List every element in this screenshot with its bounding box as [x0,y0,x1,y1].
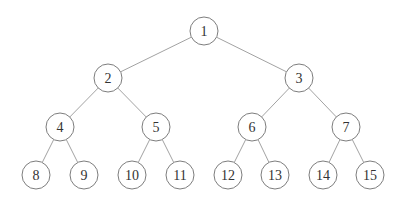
tree-node-2: 2 [94,64,122,92]
binary-tree-diagram: 123456789101112131415 [0,0,406,205]
node-label: 15 [363,168,377,183]
tree-edge-6-13 [258,140,269,163]
tree-edge-5-10 [138,140,149,163]
tree-node-5: 5 [142,113,170,141]
tree-edge-1-3 [217,37,287,72]
node-label: 2 [105,71,112,86]
tree-edge-2-5 [118,88,146,117]
node-label: 6 [249,120,256,135]
tree-node-7: 7 [332,113,360,141]
node-label: 5 [153,120,160,135]
node-label: 3 [296,71,303,86]
node-label: 8 [33,168,40,183]
tree-edge-2-4 [70,88,98,117]
tree-node-12: 12 [214,161,242,189]
tree-node-11: 11 [166,161,194,189]
tree-edge-4-8 [42,140,53,163]
node-label: 14 [316,168,330,183]
tree-nodes: 123456789101112131415 [22,17,384,189]
tree-edge-3-7 [309,88,337,117]
node-label: 7 [343,120,350,135]
tree-node-1: 1 [190,17,218,45]
node-label: 4 [57,120,64,135]
node-label: 12 [221,168,235,183]
tree-node-15: 15 [356,161,384,189]
tree-node-6: 6 [238,113,266,141]
tree-edge-4-9 [66,140,77,163]
node-label: 11 [173,168,186,183]
node-label: 13 [268,168,282,183]
node-label: 9 [81,168,88,183]
tree-edge-7-15 [352,140,363,163]
tree-edge-5-11 [162,140,173,163]
tree-node-4: 4 [46,113,74,141]
tree-node-3: 3 [285,64,313,92]
node-label: 1 [201,24,208,39]
tree-edge-3-6 [262,88,290,117]
tree-node-8: 8 [22,161,50,189]
tree-node-13: 13 [261,161,289,189]
tree-node-10: 10 [118,161,146,189]
tree-edges [42,37,363,162]
tree-edge-1-2 [121,37,192,72]
node-label: 10 [125,168,139,183]
tree-edge-6-12 [234,140,245,163]
tree-node-9: 9 [70,161,98,189]
tree-edge-7-14 [329,140,340,163]
tree-node-14: 14 [309,161,337,189]
